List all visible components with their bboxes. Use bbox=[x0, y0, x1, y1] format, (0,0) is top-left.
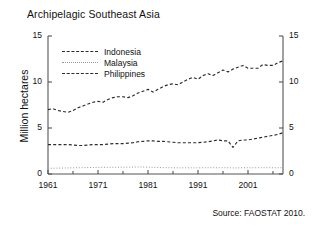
series-line-philippines bbox=[48, 133, 283, 148]
y-tick-label-left-5: 5 bbox=[24, 122, 42, 132]
source-note: Source: FAOSTAT 2010. bbox=[212, 208, 305, 218]
legend-swatch-philippines bbox=[62, 73, 98, 75]
legend-label-philippines: Philippines bbox=[104, 69, 145, 79]
x-tick-label-1971: 1971 bbox=[81, 180, 115, 190]
y-tick-label-left-15: 15 bbox=[24, 30, 42, 40]
plot-canvas bbox=[0, 0, 319, 228]
legend-item-indonesia: Indonesia bbox=[62, 46, 145, 57]
legend-swatch-indonesia bbox=[62, 51, 98, 53]
y-tick-label-right-5: 5 bbox=[289, 122, 307, 132]
x-tick-label-1981: 1981 bbox=[131, 180, 165, 190]
x-tick-label-1991: 1991 bbox=[181, 180, 215, 190]
y-tick-label-right-0: 0 bbox=[289, 168, 307, 178]
chart-title: Archipelagic Southeast Asia bbox=[27, 8, 160, 20]
y-tick-label-right-10: 10 bbox=[289, 76, 307, 86]
x-tick-label-2001: 2001 bbox=[231, 180, 265, 190]
y-tick-label-left-0: 0 bbox=[24, 168, 42, 178]
chart-figure: Archipelagic Southeast Asia Million hect… bbox=[0, 0, 319, 228]
chart-legend: Indonesia Malaysia Philippines bbox=[62, 46, 145, 79]
y-axis-label: Million hectares bbox=[18, 41, 30, 171]
x-tick-label-1961: 1961 bbox=[31, 180, 65, 190]
legend-swatch-malaysia bbox=[62, 62, 98, 64]
y-tick-label-left-10: 10 bbox=[24, 76, 42, 86]
legend-item-malaysia: Malaysia bbox=[62, 57, 145, 68]
series-line-malaysia bbox=[48, 167, 283, 168]
legend-label-indonesia: Indonesia bbox=[104, 47, 141, 57]
y-tick-label-right-15: 15 bbox=[289, 30, 307, 40]
legend-item-philippines: Philippines bbox=[62, 68, 145, 79]
legend-label-malaysia: Malaysia bbox=[104, 58, 138, 68]
